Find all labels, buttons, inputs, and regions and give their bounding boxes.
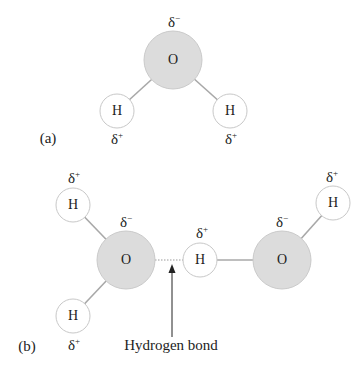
charge-label-b-left-oxygen: δ−: [120, 214, 132, 230]
oxygen-symbol-b-left: O: [121, 253, 131, 267]
charge-label-a-h-right: δ+: [225, 131, 237, 147]
charge-label-b-left-h-bottom: δ+: [68, 337, 80, 353]
arrow-head-icon: [169, 264, 176, 273]
panel-label-a: (a): [40, 131, 57, 146]
hydrogen-symbol-b-left-top: H: [68, 198, 78, 212]
charge-label-b-left-h-top: δ+: [68, 170, 80, 186]
hydrogen-symbol-b-middle: H: [195, 253, 205, 267]
oxygen-symbol-b-right: O: [277, 253, 287, 267]
oxygen-symbol-a: O: [168, 53, 178, 67]
charge-label-a-h-left: δ+: [111, 131, 123, 147]
hydrogen-symbol-a-right: H: [225, 104, 235, 118]
hydrogen-symbol-b-left-bottom: H: [68, 309, 78, 323]
hydrogen-bond-annotation: Hydrogen bond: [124, 338, 218, 353]
panel-label-b: (b): [18, 339, 36, 354]
charge-label-b-right-h-top: δ+: [326, 169, 338, 185]
hydrogen-symbol-b-right-top: H: [328, 196, 338, 210]
charge-label-b-middle-h: δ+: [196, 225, 208, 241]
water-diagram: [0, 0, 363, 365]
hydrogen-symbol-a-left: H: [112, 104, 122, 118]
charge-label-a-oxygen: δ−: [168, 14, 180, 30]
charge-label-b-right-oxygen: δ−: [276, 214, 288, 230]
